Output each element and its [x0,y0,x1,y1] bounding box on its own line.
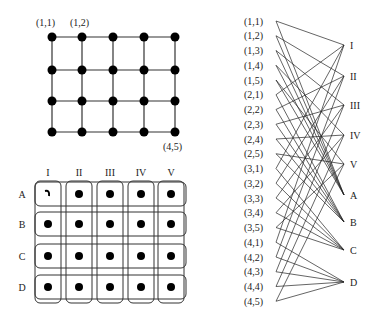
bipartite-edge [276,282,344,287]
column-label: V [167,167,175,178]
grid-node [140,33,149,42]
right-node-label: III [350,100,360,111]
bipartite-edge [276,45,344,242]
grid-graph: (1,1)(1,2)(4,5) [36,17,182,153]
grid-node [109,128,118,137]
element-dot [75,190,83,198]
grid-node [78,33,87,42]
left-node-label: (2,5) [244,148,263,160]
right-node-label: V [350,159,358,170]
bipartite-edge [276,76,344,257]
right-node-label: B [350,217,357,228]
grid-node [48,128,57,137]
grid-node [109,33,118,42]
bipartite-edge [276,282,344,301]
left-node-label: (1,5) [244,75,263,87]
left-node-label: (4,2) [244,252,263,264]
bipartite-edge [276,242,344,282]
right-node-label: IV [350,130,361,141]
right-node-label: I [350,40,353,51]
grid-node [48,97,57,106]
column-label: III [105,167,115,178]
bipartite-edge [276,183,344,250]
grid-node [140,128,149,137]
grid-node [78,66,87,75]
grid-node [48,66,57,75]
element-dot [137,252,145,260]
right-node-label: D [350,277,357,288]
grid-node [48,33,57,42]
row-label: A [18,189,26,200]
grid-node [171,128,180,137]
element-dot [167,220,175,228]
row-label: B [19,219,26,230]
element-dot [106,190,114,198]
grid-node [109,97,118,106]
column-label: I [46,167,49,178]
right-node-label: A [350,190,358,201]
partial-dot [45,191,49,196]
left-node-label: (4,1) [244,237,263,249]
grid-node [171,33,180,42]
element-dot [75,220,83,228]
element-dot [167,283,175,291]
left-node-label: (1,4) [244,60,263,72]
grid-node [78,128,87,137]
left-node-label: (2,3) [244,119,263,131]
bipartite-edge [276,36,344,195]
grid-node-label: (1,1) [36,17,55,29]
grid-node [109,66,118,75]
element-dot [106,252,114,260]
column-label: II [76,167,83,178]
row-label: D [18,282,25,293]
grid-node-label: (1,2) [70,17,89,29]
bipartite-edge [276,257,344,282]
diagram-canvas: (1,1)(1,2)(4,5) IIIIIIIVVABCD (1,1)(1,2)… [0,0,376,320]
bipartite-edge [276,154,344,164]
bipartite-edge [276,135,344,139]
left-node-label: (4,5) [244,296,263,308]
element-dot [44,283,52,291]
left-node-label: (2,4) [244,134,263,146]
bipartite-edge [276,65,344,135]
bipartite-edge [276,45,344,169]
grid-node [78,97,87,106]
left-node-label: (3,5) [244,222,263,234]
element-dot [137,283,145,291]
element-dot [44,220,52,228]
element-dot [75,283,83,291]
grid-node-label: (4,5) [163,141,182,153]
grid-node [171,66,180,75]
column-label: IV [136,167,147,178]
left-node-label: (3,1) [244,163,263,175]
grid-node [140,97,149,106]
element-dot [167,252,175,260]
element-dot [106,220,114,228]
left-node-label: (3,3) [244,193,263,205]
left-node-label: (1,2) [244,30,263,42]
element-dot [75,252,83,260]
left-node-label: (1,3) [244,45,263,57]
left-node-label: (3,2) [244,178,263,190]
row-label: C [19,251,26,262]
left-node-label: (4,3) [244,266,263,278]
grid-node [140,66,149,75]
left-node-label: (1,1) [244,16,263,28]
left-node-label: (2,1) [244,89,263,101]
element-dot [44,252,52,260]
left-node-label: (3,4) [244,207,263,219]
right-node-label: C [350,245,357,256]
left-node-label: (4,4) [244,281,263,293]
bipartite-graph: (1,1)(1,2)(1,3)(1,4)(1,5)(2,1)(2,2)(2,3)… [244,16,361,308]
right-node-label: II [350,71,357,82]
grid-node [171,97,180,106]
element-dot [106,283,114,291]
element-dot [137,190,145,198]
left-node-label: (2,2) [244,104,263,116]
element-dot [137,220,145,228]
element-dot [167,190,175,198]
cover-grid: IIIIIIIVVABCD [18,167,186,303]
